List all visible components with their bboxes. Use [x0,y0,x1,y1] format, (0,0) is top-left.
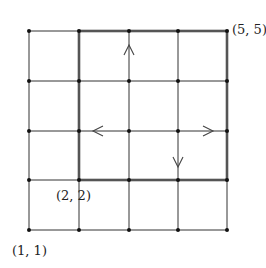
lattice-diagram: (5, 5) (2, 2) (1, 1) [0,0,266,268]
arrows [93,45,213,167]
label-origin: (1, 1) [12,243,47,258]
highlighted-square [79,31,227,180]
label-inner-corner: (2, 2) [56,188,91,203]
label-top-right: (5, 5) [232,22,266,37]
